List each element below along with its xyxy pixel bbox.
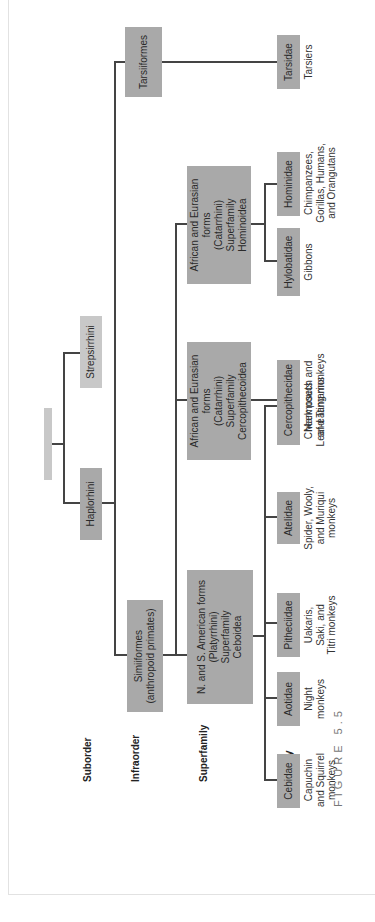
connector-to-ceboidea — [175, 654, 187, 656]
primate-classification-diagram: Suborder Infraorder Superfamily Family F… — [0, 0, 375, 922]
connector-to-hominidae — [264, 183, 277, 185]
connector-to-aotidae — [264, 697, 277, 699]
connector-to-hominoidea — [175, 223, 187, 225]
family-cebidae: Cebidae — [277, 754, 300, 808]
connector-hominoidea-stem — [251, 223, 265, 225]
family-callitrichidae: Callitrichidae — [277, 369, 300, 445]
row-label-infraorder: Infraorder — [130, 735, 141, 782]
family-desc-atelidae: Spider, Wooly, and Muriqui monkeys — [303, 470, 338, 566]
connector-to-strepsirrhini — [63, 352, 80, 354]
superfamily-hominoidea: African and Eurasian forms (Catarrhini) … — [187, 166, 251, 284]
connector-suborder-span — [63, 352, 65, 504]
connector-to-callitrichidae — [264, 405, 277, 407]
connector-tarsiiformes-to-tarsidae — [162, 61, 277, 63]
connector-to-pitheciidae — [264, 622, 277, 624]
family-hominidae: Hominidae — [277, 152, 300, 216]
connector-to-cercopithecidae — [251, 399, 277, 401]
row-label-superfamily: Superfamily — [198, 725, 209, 782]
root-order-bar — [44, 408, 52, 480]
family-hylobatidae: Hylobatidae — [277, 228, 300, 296]
connector-to-haplorhini — [63, 502, 80, 504]
family-desc-pitheciidae: Uakaris, Saki, and Titri monkeys — [303, 583, 338, 667]
infraorder-tarsiiformes: Tarsiiformes — [125, 27, 162, 97]
infraorder-simiiformes: Simiiformes (anthropoid primates) — [127, 600, 163, 712]
connector-to-simiiformes — [114, 654, 127, 656]
family-desc-hominidae: Chimpanzees, Gorillas, Humans, and Orang… — [303, 134, 338, 232]
family-aotidae: Aotidae — [277, 672, 300, 726]
superfamily-cercopithecoidea: African and Eurasian forms (Catarrhini) … — [187, 342, 251, 460]
family-tarsidae: Tarsidae — [277, 35, 300, 89]
connector-to-atelidae — [264, 516, 277, 518]
family-desc-tarsidae: Tarsiers — [303, 32, 315, 92]
connector-infraorder-span — [114, 61, 116, 656]
connector-ceboidea-family-span — [264, 405, 266, 781]
family-pitheciidae: Pitheciidae — [277, 593, 300, 657]
family-desc-hylobatidae: Gibbons — [303, 228, 315, 296]
connector-to-hylobatidae — [264, 260, 277, 262]
suborder-haplorhini: Haplorhini — [80, 468, 102, 540]
connector-superfamily-span — [175, 223, 177, 656]
row-label-suborder: Suborder — [82, 738, 93, 782]
connector-hominoidea-family-span — [264, 183, 266, 262]
superfamily-ceboidea: N. and S. American forms (Platyrrhini) S… — [187, 570, 253, 704]
family-desc-cebidae: Capuchin and Squirrel monkeys — [303, 738, 338, 822]
family-desc-aotidae: Night monkeys — [303, 664, 326, 734]
connector-to-cercopithecoidea — [175, 399, 187, 401]
connector-to-cebidae — [264, 779, 277, 781]
suborder-strepsirrhini: Strepsirrhini — [80, 316, 102, 388]
family-desc-callitrichidae: Marmosets and Tamarins — [303, 357, 326, 457]
family-atelidae: Atelidae — [277, 492, 300, 544]
connector-to-tarsiiformes — [114, 61, 125, 63]
